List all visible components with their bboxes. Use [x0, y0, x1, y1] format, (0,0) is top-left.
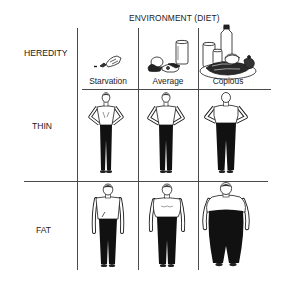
heredity-environment-diagram: ENVIRONMENT (DIET) HEREDITY Starvation A…: [0, 0, 285, 284]
column-label-starvation: Starvation: [78, 77, 138, 85]
column-label-copious: Copious: [198, 77, 258, 85]
thin-man-starvation: [90, 93, 122, 173]
copious-feast-icon: [200, 25, 256, 79]
sparse-food-icon: [94, 56, 121, 67]
column-label-average: Average: [138, 77, 198, 85]
row-header-heredity: HEREDITY: [24, 49, 67, 58]
row-label-fat: FAT: [36, 226, 51, 235]
diagram-art: [0, 0, 285, 284]
heavy-man-average: [151, 184, 183, 267]
diagram-title: ENVIRONMENT (DIET): [129, 14, 220, 22]
thin-man-copious: [206, 93, 246, 174]
row-label-thin: THIN: [32, 122, 52, 131]
stocky-man-starvation: [94, 184, 123, 267]
thin-man-average: [149, 93, 183, 173]
obese-man-copious: [205, 183, 248, 267]
average-meal-icon: [148, 40, 188, 72]
